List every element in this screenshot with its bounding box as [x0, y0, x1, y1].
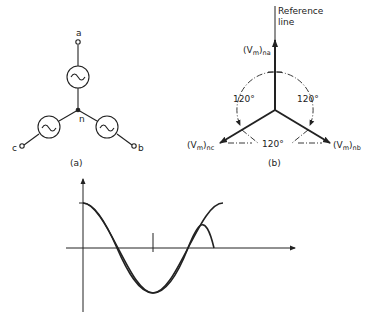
reference-line-label-1: Reference [278, 6, 324, 16]
terminal-c-icon [20, 144, 24, 148]
phasor-nb-label: (Vm)nb [333, 140, 361, 152]
terminal-c-label: c [12, 143, 17, 153]
three-phase-diagram: a c b n (a) Reference line (Vm)na (Vm)nc… [0, 0, 374, 329]
phasor-nc-label: (Vm)nc [187, 140, 215, 152]
reference-line-label-2: line [278, 17, 295, 27]
angle-label-left: 120° [233, 94, 255, 104]
caption-b: (b) [268, 158, 281, 168]
caption-a: (a) [70, 158, 83, 168]
terminal-a-icon [76, 40, 80, 44]
phasor-diagram [220, 6, 330, 143]
phasor-na-label: (Vm)na [243, 45, 271, 57]
wye-circuit [20, 40, 136, 148]
terminal-b-label: b [138, 143, 144, 153]
angle-label-bottom: 120° [262, 139, 284, 149]
terminal-a-label: a [76, 28, 82, 38]
waveform-plot [66, 179, 295, 312]
angle-label-right: 120° [297, 94, 319, 104]
neutral-label: n [79, 114, 85, 124]
terminal-b-icon [132, 144, 136, 148]
